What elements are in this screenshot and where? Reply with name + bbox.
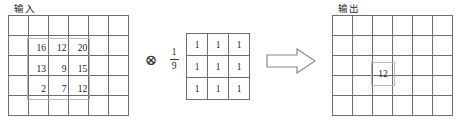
input-patch-value: 16 bbox=[29, 38, 49, 58]
output-label: 输出 bbox=[338, 1, 359, 15]
output-cell bbox=[413, 56, 433, 76]
output-cell bbox=[333, 16, 353, 36]
kernel-cell-value: 1 bbox=[229, 78, 249, 100]
fraction-numerator: 1 bbox=[166, 47, 182, 58]
arrow-right-icon bbox=[266, 48, 316, 74]
output-cell bbox=[393, 36, 413, 56]
output-cell bbox=[433, 56, 453, 76]
kernel-cell-value: 1 bbox=[229, 34, 249, 56]
output-cell bbox=[393, 76, 413, 96]
scalar-fraction: 1 9 bbox=[166, 47, 182, 72]
output-cell bbox=[413, 36, 433, 56]
output-cell bbox=[353, 36, 373, 56]
output-cell bbox=[413, 76, 433, 96]
output-cell-value: 12 bbox=[371, 62, 395, 86]
kernel-matrix: 111111111 bbox=[186, 33, 250, 100]
input-patch-value: 2 bbox=[29, 79, 49, 99]
output-cell bbox=[353, 76, 373, 96]
kernel-cell-value: 1 bbox=[187, 34, 207, 56]
kernel-cell: 1 bbox=[208, 78, 229, 100]
convolution-operator-icon: ⊗ bbox=[143, 52, 159, 68]
output-cell bbox=[373, 36, 393, 56]
input-patch-value: 12 bbox=[70, 79, 90, 99]
input-patch-value: 7 bbox=[50, 79, 70, 99]
kernel-cell: 1 bbox=[187, 34, 208, 56]
kernel-cell: 1 bbox=[208, 34, 229, 56]
input-patch-value: 9 bbox=[50, 59, 70, 79]
kernel-cell-value: 1 bbox=[187, 56, 207, 78]
input-cell bbox=[89, 56, 109, 76]
input-cell bbox=[9, 36, 29, 56]
kernel-cell-value: 1 bbox=[208, 34, 228, 56]
input-cell bbox=[69, 16, 89, 36]
kernel-cell: 1 bbox=[187, 78, 208, 100]
input-cell bbox=[109, 76, 129, 96]
kernel-cell-value: 1 bbox=[208, 56, 228, 78]
input-patch-value: 15 bbox=[70, 59, 90, 79]
fraction-bar bbox=[170, 59, 179, 60]
kernel-cell-value: 1 bbox=[208, 78, 228, 100]
output-cell bbox=[333, 56, 353, 76]
input-cell bbox=[9, 16, 29, 36]
input-cell bbox=[9, 76, 29, 96]
fraction-denominator: 9 bbox=[166, 61, 182, 72]
output-cell bbox=[373, 16, 393, 36]
output-cell bbox=[413, 16, 433, 36]
input-cell bbox=[109, 96, 129, 116]
kernel-cell: 1 bbox=[229, 78, 250, 100]
output-cell bbox=[333, 76, 353, 96]
input-cell bbox=[89, 96, 109, 116]
input-cell bbox=[89, 36, 109, 56]
output-cell bbox=[433, 96, 453, 116]
output-cell bbox=[393, 96, 413, 116]
output-cell bbox=[433, 36, 453, 56]
output-cell bbox=[373, 96, 393, 116]
input-patch-value: 20 bbox=[70, 38, 90, 58]
input-cell bbox=[89, 76, 109, 96]
kernel-cell-value: 1 bbox=[229, 56, 249, 78]
output-cell bbox=[433, 16, 453, 36]
kernel-cell: 1 bbox=[229, 34, 250, 56]
input-cell bbox=[9, 56, 29, 76]
output-cell bbox=[353, 16, 373, 36]
output-cell bbox=[333, 96, 353, 116]
output-cell bbox=[333, 36, 353, 56]
kernel-cell: 1 bbox=[229, 56, 250, 78]
input-cell bbox=[49, 16, 69, 36]
output-cell bbox=[353, 56, 373, 76]
convolution-diagram: 输入 输出 ⊗ 1 9 111111111 12 161220139152712 bbox=[0, 0, 460, 130]
input-patch-value: 12 bbox=[50, 38, 70, 58]
output-cell bbox=[413, 96, 433, 116]
output-cell bbox=[393, 16, 413, 36]
output-cell bbox=[353, 96, 373, 116]
output-cell bbox=[433, 76, 453, 96]
input-cell bbox=[109, 36, 129, 56]
kernel-cell: 1 bbox=[187, 56, 208, 78]
input-cell bbox=[109, 56, 129, 76]
kernel-cell: 1 bbox=[208, 56, 229, 78]
input-cell bbox=[9, 96, 29, 116]
input-label: 输入 bbox=[14, 1, 35, 15]
input-cell bbox=[29, 16, 49, 36]
kernel-cell-value: 1 bbox=[187, 78, 207, 100]
input-cell bbox=[89, 16, 109, 36]
input-cell bbox=[109, 16, 129, 36]
output-cell bbox=[393, 56, 413, 76]
input-patch-value: 13 bbox=[29, 59, 49, 79]
